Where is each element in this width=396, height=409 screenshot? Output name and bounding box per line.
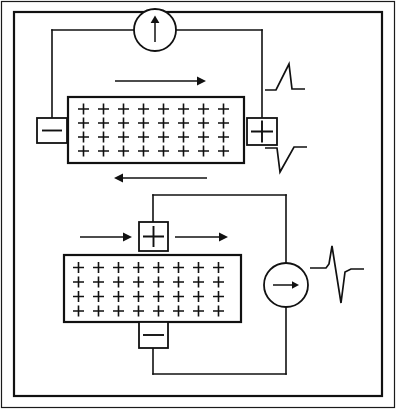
top-membrane-body: [68, 97, 244, 163]
top-left-electrode[interactable]: [37, 118, 67, 143]
top-right-electrode[interactable]: [247, 118, 277, 145]
bottom-meter[interactable]: [264, 263, 308, 307]
circuit-diagram-canvas: [0, 0, 396, 409]
charged-membrane-top: [68, 97, 244, 163]
figure-root: Membrane depolarization circuit diagram: [0, 0, 396, 409]
outer-border: [2, 2, 395, 408]
bottom-membrane-body: [64, 255, 241, 322]
bottom-top-electrode[interactable]: [139, 222, 168, 251]
bottom-bottom-electrode[interactable]: [139, 322, 168, 348]
charged-membrane-bottom: [64, 255, 241, 322]
top-meter[interactable]: [134, 9, 176, 51]
